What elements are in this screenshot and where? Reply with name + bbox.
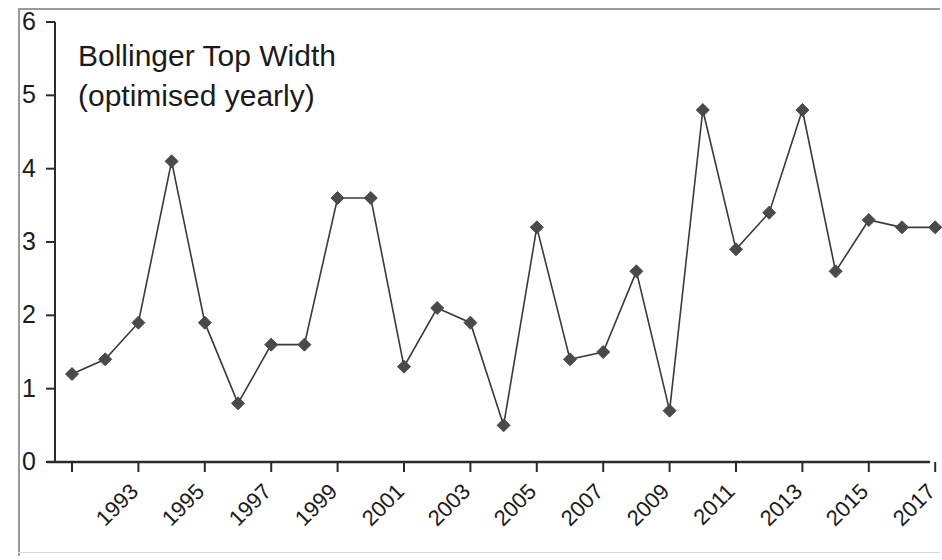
data-series-line bbox=[72, 110, 935, 425]
data-point-marker bbox=[796, 104, 809, 117]
data-point-marker bbox=[66, 368, 79, 381]
chart-title: Bollinger Top Width (optimised yearly) bbox=[78, 36, 336, 115]
y-axis-tick-label: 4 bbox=[10, 156, 36, 181]
data-point-marker bbox=[232, 397, 245, 410]
y-axis-tick-label: 0 bbox=[10, 449, 36, 474]
data-point-marker bbox=[265, 338, 278, 351]
chart-figure: 0123456 19931995199719992001200320052007… bbox=[0, 0, 942, 560]
data-point-marker bbox=[364, 192, 377, 205]
y-axis-tick-label: 1 bbox=[10, 376, 36, 401]
y-axis-tick-label: 6 bbox=[10, 9, 36, 34]
data-point-marker bbox=[862, 214, 875, 227]
data-point-marker bbox=[896, 221, 909, 234]
data-point-marker bbox=[298, 338, 311, 351]
data-point-marker bbox=[597, 346, 610, 359]
y-axis-tick-label: 5 bbox=[10, 82, 36, 107]
data-point-marker bbox=[497, 419, 510, 432]
data-point-marker bbox=[564, 353, 577, 366]
data-point-marker bbox=[431, 302, 444, 315]
data-point-marker bbox=[464, 316, 477, 329]
y-axis-tick-label: 3 bbox=[10, 229, 36, 254]
data-point-marker bbox=[696, 104, 709, 117]
data-point-marker bbox=[929, 221, 942, 234]
data-point-marker bbox=[829, 265, 842, 278]
data-point-marker bbox=[198, 316, 211, 329]
x-axis-ticks bbox=[72, 462, 935, 472]
data-point-marker bbox=[398, 360, 411, 373]
y-axis-tick-label: 2 bbox=[10, 302, 36, 327]
data-point-marker bbox=[630, 265, 643, 278]
data-point-marker bbox=[663, 404, 676, 417]
data-point-marker bbox=[165, 155, 178, 168]
data-point-marker bbox=[331, 192, 344, 205]
y-axis-ticks bbox=[46, 22, 55, 462]
data-point-markers bbox=[66, 104, 942, 432]
data-point-marker bbox=[530, 221, 543, 234]
